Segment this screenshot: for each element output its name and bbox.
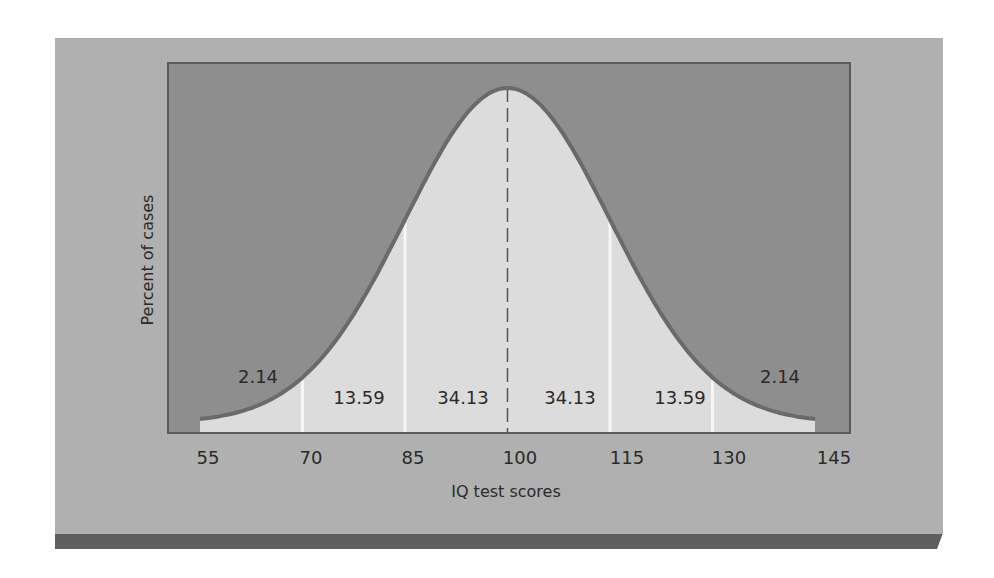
x-tick-115: 115 (610, 447, 644, 468)
x-tick-100: 100 (503, 447, 537, 468)
panel-shadow (55, 533, 943, 549)
region-label-100-115: 34.13 (544, 387, 596, 408)
x-tick-130: 130 (712, 447, 746, 468)
region-label-115-130: 13.59 (654, 387, 706, 408)
x-axis-label: IQ test scores (451, 482, 561, 501)
region-label-70-85: 13.59 (333, 387, 385, 408)
x-tick-145: 145 (817, 447, 851, 468)
x-tick-85: 85 (402, 447, 425, 468)
x-tick-70: 70 (300, 447, 323, 468)
region-label-130-145: 2.14 (760, 366, 800, 387)
iq-normal-distribution-figure: 2.14 13.59 34.13 34.13 13.59 2.14 55 70 … (0, 0, 994, 578)
region-label-85-100: 34.13 (437, 387, 489, 408)
region-label-55-70: 2.14 (238, 366, 278, 387)
y-axis-label: Percent of cases (138, 195, 157, 326)
x-tick-55: 55 (197, 447, 220, 468)
